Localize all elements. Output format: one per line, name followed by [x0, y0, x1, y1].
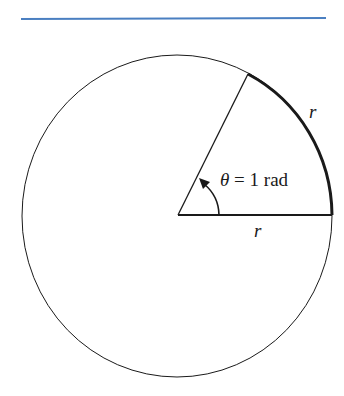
angle-value: 1 rad — [250, 169, 289, 190]
angle-arc — [204, 184, 219, 215]
top-rule — [21, 18, 326, 19]
arc-label: r — [309, 101, 316, 123]
theta-symbol: θ — [220, 169, 229, 190]
equals-sign: = — [234, 169, 245, 190]
radian-diagram — [0, 0, 344, 396]
angle-label: θ = 1 rad — [220, 169, 288, 191]
arc-length-r — [248, 74, 332, 215]
radius-label: r — [254, 220, 261, 242]
